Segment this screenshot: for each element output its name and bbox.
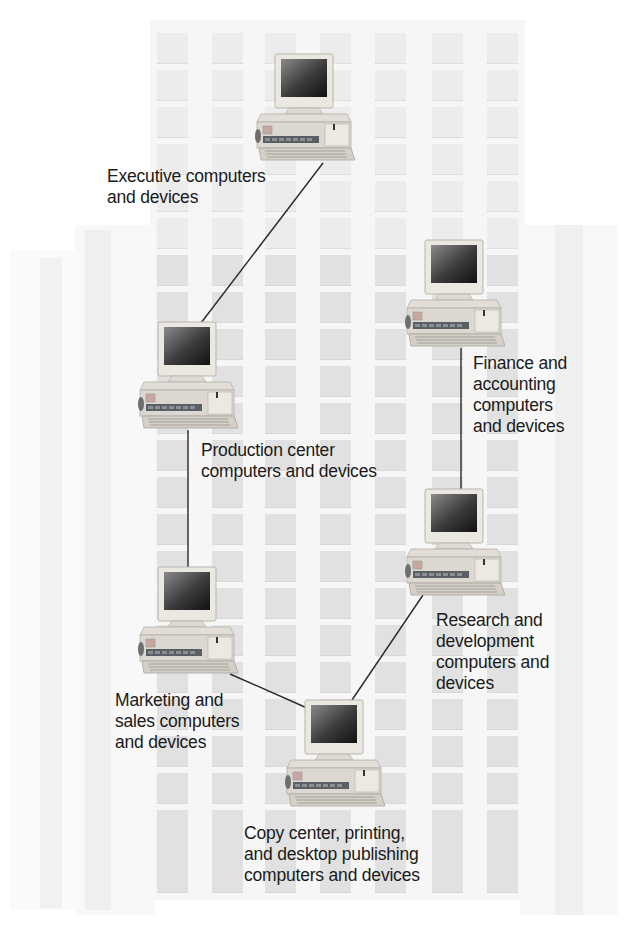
window-tile <box>375 514 406 545</box>
window-tile <box>320 218 351 249</box>
window-tile <box>320 366 351 397</box>
window-tile <box>432 366 463 397</box>
window-tile <box>432 773 463 804</box>
desktop-computer-icon <box>138 565 238 677</box>
label-marketing: Marketing and sales computers and device… <box>115 690 239 753</box>
window-tile <box>212 773 243 804</box>
window-tile <box>212 514 243 545</box>
window-tile <box>320 292 351 323</box>
window-tile <box>320 514 351 545</box>
window-tile <box>265 181 296 212</box>
executive-computer <box>255 52 355 164</box>
window-tile <box>157 840 188 893</box>
window-tile <box>265 403 296 434</box>
window-tile <box>320 551 351 582</box>
window-tile <box>375 292 406 323</box>
window-tile <box>375 440 406 471</box>
window-tile <box>320 625 351 656</box>
window-tile <box>432 810 463 841</box>
finance-computer <box>405 238 505 350</box>
label-finance: Finance and accounting computers and dev… <box>473 353 567 437</box>
window-tile <box>487 33 518 64</box>
window-tile <box>432 181 463 212</box>
window-tile <box>157 440 188 471</box>
window-tile <box>487 840 518 893</box>
research-computer <box>405 487 505 599</box>
window-tile <box>432 403 463 434</box>
window-tile <box>265 218 296 249</box>
window-tile <box>487 699 518 730</box>
window-tile <box>375 329 406 360</box>
production-computer <box>138 320 238 432</box>
window-tile <box>265 662 296 693</box>
window-tile <box>157 292 188 323</box>
window-tile <box>320 662 351 693</box>
window-tile <box>320 329 351 360</box>
window-tile <box>320 181 351 212</box>
desktop-computer-icon <box>255 52 355 164</box>
window-tile <box>320 255 351 286</box>
desktop-computer-icon <box>285 698 385 810</box>
network-diagram: Executive computers and devices Producti… <box>0 0 630 944</box>
window-tile <box>265 514 296 545</box>
window-tile <box>487 736 518 767</box>
window-tile <box>265 255 296 286</box>
window-tile <box>212 33 243 64</box>
window-tile <box>157 810 188 841</box>
window-tile <box>265 329 296 360</box>
desktop-computer-icon <box>405 238 505 350</box>
label-copycenter: Copy center, printing, and desktop publi… <box>244 823 420 886</box>
window-tile <box>157 773 188 804</box>
window-tile <box>375 625 406 656</box>
window-tile <box>320 403 351 434</box>
window-tile <box>212 292 243 323</box>
window-tile <box>265 551 296 582</box>
window-tile <box>432 699 463 730</box>
window-tile <box>375 403 406 434</box>
window-tile <box>212 70 243 101</box>
window-tile <box>375 218 406 249</box>
window-tile <box>432 736 463 767</box>
window-tile <box>375 181 406 212</box>
window-tile <box>157 218 188 249</box>
window-tile <box>265 588 296 619</box>
window-tile <box>375 588 406 619</box>
window-tile <box>487 810 518 841</box>
desktop-computer-icon <box>405 487 505 599</box>
window-tile <box>265 366 296 397</box>
window-tile <box>375 70 406 101</box>
window-tile <box>157 33 188 64</box>
window-tile <box>157 514 188 545</box>
window-tile <box>212 107 243 138</box>
window-tile <box>265 625 296 656</box>
window-tile <box>212 840 243 893</box>
window-tile <box>320 588 351 619</box>
label-production: Production center computers and devices <box>201 440 377 482</box>
window-tile <box>212 810 243 841</box>
window-tile <box>432 33 463 64</box>
window-tile <box>487 144 518 175</box>
copycenter-computer <box>285 698 385 810</box>
window-tile <box>487 181 518 212</box>
window-tile <box>157 107 188 138</box>
window-tile <box>432 840 463 893</box>
window-tile <box>212 255 243 286</box>
window-tile <box>375 477 406 508</box>
window-tile <box>375 662 406 693</box>
window-tile <box>265 292 296 323</box>
window-tile <box>212 218 243 249</box>
window-tile <box>375 33 406 64</box>
label-executive: Executive computers and devices <box>107 166 266 208</box>
window-tile <box>157 477 188 508</box>
window-tile <box>432 144 463 175</box>
window-tile <box>375 366 406 397</box>
window-tile <box>487 440 518 471</box>
window-tile <box>157 255 188 286</box>
window-tile <box>157 70 188 101</box>
window-tile <box>375 551 406 582</box>
window-tile <box>432 440 463 471</box>
window-tile <box>375 107 406 138</box>
window-tile <box>375 144 406 175</box>
window-tile <box>487 70 518 101</box>
window-tile <box>432 107 463 138</box>
